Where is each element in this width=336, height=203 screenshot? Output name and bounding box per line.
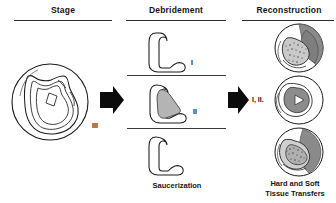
graft-fill-ii — [157, 90, 180, 119]
reconstruction-circle-1 — [275, 24, 323, 72]
defect-outline-i — [149, 33, 185, 72]
arrow-debridement-to-reconstruction — [228, 86, 249, 114]
reconstruction-transition-label: I, II. — [252, 96, 264, 103]
debridement-panel-iii-art — [149, 137, 183, 175]
debridement-panel-label-ii: II — [193, 108, 197, 115]
debridement-panel-label-i: I — [191, 59, 193, 66]
stage-iii-cross-section — [12, 64, 88, 140]
figure-artwork — [0, 0, 336, 203]
debridement-panel-ii-art — [150, 85, 186, 123]
debridement-panel-i-art — [149, 33, 185, 72]
arrow-stage-to-debridement — [100, 86, 124, 114]
mandible-reconstruction-figure: Stage Debridement Reconstruction — [0, 0, 336, 203]
defect-outline-iii — [149, 137, 183, 175]
reconstruction-caption-line1: Hard and Soft — [255, 179, 335, 188]
reconstruction-caption-line2: Tissue Transfers — [255, 189, 335, 198]
reconstruction-circle-3 — [275, 128, 323, 176]
debridement-caption: Saucerization — [132, 181, 222, 190]
reconstruction-circle-2 — [275, 76, 323, 124]
stage-label-iii: III — [92, 122, 98, 129]
